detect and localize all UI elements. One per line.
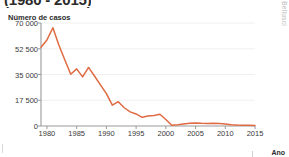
left-edge-marker	[2, 144, 3, 153]
y-tick-label: 0	[34, 122, 38, 131]
x-tick-labels: 19801985199019952000200520102015	[41, 129, 255, 141]
x-axis-title: Ano	[271, 149, 285, 156]
x-tick-label: 2000	[157, 129, 174, 138]
line-chart-svg	[41, 23, 255, 126]
x-tick-label: 1995	[128, 129, 145, 138]
chart-figure: (1980 - 2015) Número de casos 017 50035 …	[0, 0, 289, 157]
y-tick-label: 17 500	[15, 96, 38, 105]
y-tick-labels: 017 50035 00052 50070 000	[0, 23, 38, 126]
y-tick-label: 52 500	[15, 44, 38, 53]
headline-divider	[0, 6, 289, 7]
data-series-line	[41, 28, 255, 126]
y-tick-label: 70 000	[15, 19, 38, 28]
plot-area	[41, 23, 255, 126]
x-tick-label: 1980	[39, 129, 56, 138]
x-tick-label: 1985	[68, 129, 85, 138]
bottom-edge-marker	[252, 151, 253, 157]
y-tick-label: 35 000	[15, 70, 38, 79]
x-tick-label: 2015	[247, 129, 264, 138]
gridlines	[41, 23, 255, 100]
credit-label: E. Bellusci	[281, 0, 288, 26]
x-tick-label: 2010	[217, 129, 234, 138]
x-tick-label: 1990	[98, 129, 115, 138]
x-tick-label: 2005	[187, 129, 204, 138]
